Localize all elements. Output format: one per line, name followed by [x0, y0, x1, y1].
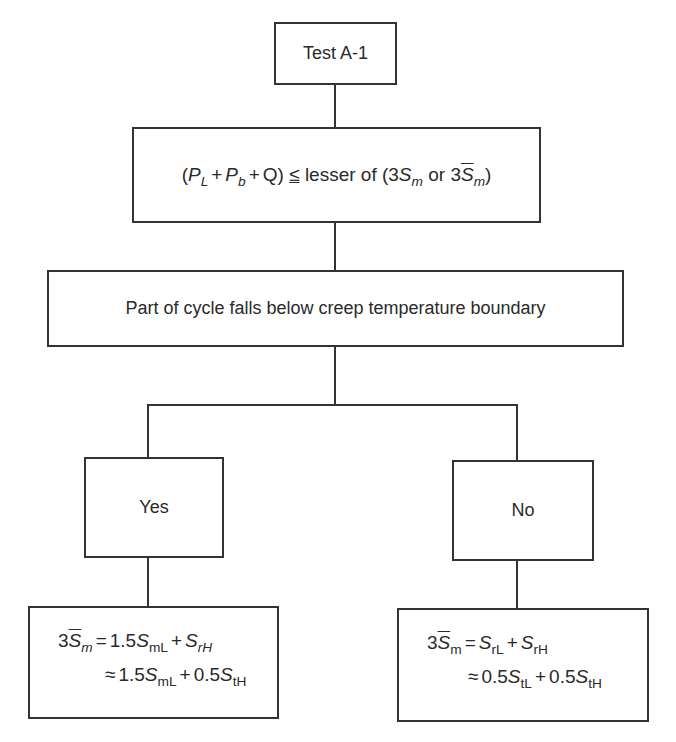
- connector-branch-to-no: [516, 404, 518, 461]
- no-box: No: [452, 460, 594, 561]
- question-label: Part of cycle falls below creep temperat…: [125, 298, 545, 319]
- connector-yes-to-result: [147, 556, 149, 607]
- branch-horizontal-line: [147, 404, 518, 406]
- connector-question-to-branch: [334, 345, 336, 406]
- condition-box: (PL+Pb+Q) ≤ lesser of (3Sm or 3Sm): [132, 127, 541, 223]
- result-yes-box: 3Sm=1.5SmL+SrH ≈1.5SmL+0.5StH: [28, 606, 279, 719]
- result-no-line2: ≈0.5StL+0.5StH: [465, 666, 602, 688]
- result-yes-line2: ≈1.5SmL+0.5StH: [102, 664, 246, 686]
- title-label: Test A-1: [303, 43, 368, 64]
- result-no-box: 3Sm=SrL+SrH ≈0.5StL+0.5StH: [397, 608, 649, 722]
- connector-condition-to-question: [334, 221, 336, 272]
- result-yes-line1: 3Sm=1.5SmL+SrH: [58, 630, 212, 652]
- connector-branch-to-yes: [147, 404, 149, 459]
- question-box: Part of cycle falls below creep temperat…: [47, 270, 624, 347]
- no-label: No: [511, 500, 534, 521]
- connector-no-to-result: [516, 559, 518, 609]
- yes-box: Yes: [84, 457, 224, 558]
- condition-formula: (PL+Pb+Q) ≤ lesser of (3Sm or 3Sm): [182, 164, 492, 186]
- title-box: Test A-1: [274, 22, 397, 85]
- result-no-line1: 3Sm=SrL+SrH: [427, 632, 548, 654]
- yes-label: Yes: [139, 497, 168, 518]
- connector-title-to-condition: [334, 84, 336, 128]
